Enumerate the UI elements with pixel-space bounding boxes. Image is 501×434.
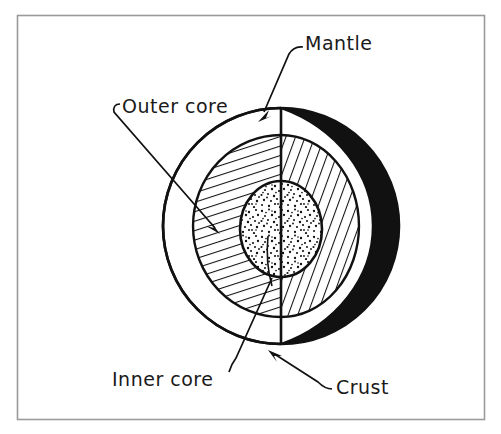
label-outer-core: Outer core (122, 95, 228, 117)
crust-leader (268, 350, 332, 389)
earth-cutaway-diagram: Mantle Outer core Inner core Crust (0, 0, 501, 434)
earth-sphere (163, 108, 399, 344)
figure-root: Mantle Outer core Inner core Crust (0, 0, 501, 434)
label-inner-core: Inner core (112, 368, 213, 390)
label-crust: Crust (336, 376, 389, 398)
label-mantle: Mantle (305, 32, 373, 54)
crust-arrowhead (268, 350, 282, 362)
